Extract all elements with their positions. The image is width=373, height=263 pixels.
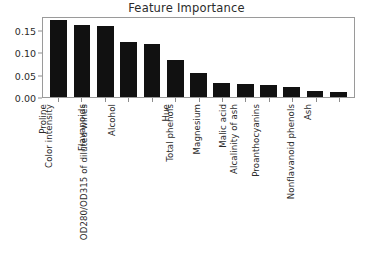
x-axis: ProlineColor intensityFlavanoidsAlcoholO… <box>42 98 355 258</box>
figure-caption <box>0 246 373 263</box>
x-axis-tick-mark <box>152 98 153 102</box>
bar <box>74 25 91 97</box>
y-axis-tick-label: 0.05 <box>15 70 36 81</box>
bar-slot <box>303 18 326 97</box>
bar-slot <box>257 18 280 97</box>
bar <box>307 91 324 97</box>
x-axis-tick: OD280/OD315 of diluted wines <box>140 98 163 258</box>
x-axis-tick-mark <box>269 98 270 102</box>
bar-slot <box>94 18 117 97</box>
bar-slot <box>70 18 93 97</box>
x-axis-tick-mark <box>58 98 59 102</box>
bar <box>144 44 161 97</box>
x-axis-tick-label: Nonflavanoid phenols <box>287 104 297 199</box>
x-axis-tick-label: Malic acid <box>219 104 229 148</box>
x-axis-tick: Alcalinity of ash <box>257 98 280 258</box>
bar-slot <box>47 18 70 97</box>
x-axis-tick-label: Alcohol <box>107 104 117 136</box>
bar-slot <box>234 18 257 97</box>
bar-slot <box>327 18 350 97</box>
bar-slot <box>164 18 187 97</box>
bars-container <box>43 18 354 97</box>
x-axis-tick-mark <box>175 98 176 102</box>
x-axis-tick: Alcohol <box>116 98 139 258</box>
bar <box>120 42 137 97</box>
x-axis-tick-mark <box>199 98 200 102</box>
x-axis-tick-label: Total phenols <box>165 104 175 162</box>
bar-slot <box>280 18 303 97</box>
bar-slot <box>210 18 233 97</box>
bar <box>50 20 67 97</box>
x-axis-tick-mark <box>128 98 129 102</box>
x-axis-tick-label: Magnesium <box>192 104 202 154</box>
x-axis-tick-label: OD280/OD315 of diluted wines <box>79 104 89 240</box>
x-axis-tick-mark <box>292 98 293 102</box>
chart-title: Feature Importance <box>0 1 373 15</box>
x-axis-tick-label: Proanthocyanins <box>251 104 261 177</box>
x-axis-tick: Ash <box>304 98 327 258</box>
plot-area <box>42 17 355 98</box>
bar-slot <box>140 18 163 97</box>
x-axis-tick-label: Ash <box>303 104 313 120</box>
bar <box>330 92 347 97</box>
y-axis: 0.000.050.100.15 <box>0 17 42 99</box>
x-axis-tick-mark <box>105 98 106 102</box>
x-axis-tick-mark <box>81 98 82 102</box>
bar <box>283 87 300 97</box>
figure-canvas: Feature Importance 0.000.050.100.15 Prol… <box>0 0 373 263</box>
x-axis-tick-mark <box>316 98 317 102</box>
y-axis-tick-label: 0.15 <box>15 25 36 36</box>
y-axis-tick-label: 0.10 <box>15 48 36 59</box>
bar <box>190 73 207 97</box>
x-axis-tick-label: Alcalinity of ash <box>229 104 239 174</box>
bar-slot <box>187 18 210 97</box>
bar <box>167 60 184 97</box>
bar <box>213 83 230 97</box>
x-axis-tick: Nonflavanoid phenols <box>328 98 351 258</box>
bar <box>97 26 114 97</box>
x-axis-tick-label: Color intensity <box>44 104 54 168</box>
x-axis-tick-mark <box>339 98 340 102</box>
bar-slot <box>117 18 140 97</box>
x-axis-tick-mark <box>245 98 246 102</box>
bar <box>260 85 277 97</box>
y-axis-tick-label: 0.00 <box>15 93 36 104</box>
x-axis-tick-mark <box>222 98 223 102</box>
bar <box>237 84 254 98</box>
